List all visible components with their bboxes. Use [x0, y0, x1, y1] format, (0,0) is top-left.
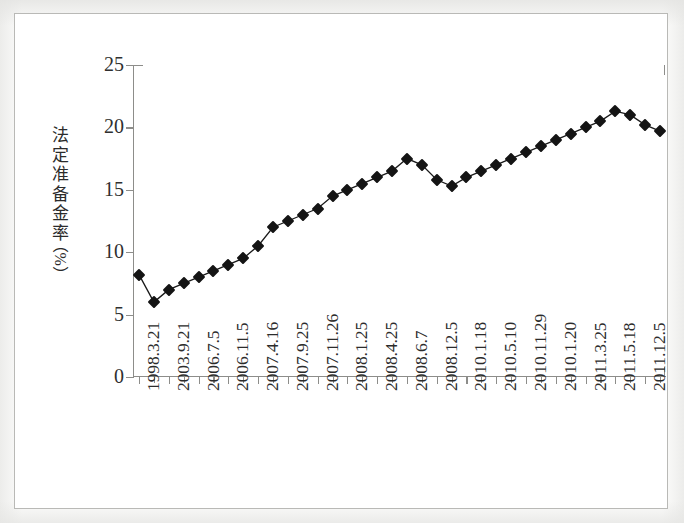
x-axis-tick-mark [526, 376, 527, 384]
y-axis-label-unit: （%） [52, 237, 69, 267]
y-axis-tick-label: 15 [104, 178, 124, 200]
y-axis-tick-label: 10 [104, 240, 124, 262]
y-axis-tick-label: 0 [114, 365, 124, 387]
x-axis-tick-mark [556, 376, 557, 384]
x-axis-tick-mark [496, 376, 497, 384]
x-axis-tick-mark [407, 376, 408, 384]
y-axis-tick-label: 25 [104, 53, 124, 75]
y-axis-label-char: 金 [45, 204, 75, 224]
y-axis-label-char: 准 [45, 165, 75, 185]
x-axis-tick-mark [466, 376, 467, 384]
x-axis-tick-mark [288, 376, 289, 384]
x-axis-tick-mark [318, 376, 319, 384]
x-axis-tick-mark [347, 376, 348, 384]
x-axis-tick-mark [199, 376, 200, 384]
y-axis-label: 法 定 准 备 金 率 （%） [45, 126, 75, 260]
y-axis-tick-mark [126, 377, 134, 378]
y-axis-label-char: 法 [45, 126, 75, 146]
x-axis-tick-mark [645, 376, 646, 384]
x-axis-tick-mark [228, 376, 229, 384]
figure-border: 法 定 准 备 金 率 （%） 0510152025 1998.3.212003… [14, 13, 668, 509]
x-axis-tick-mark [586, 376, 587, 384]
x-axis-tick-mark [169, 376, 170, 384]
y-axis-label-char: 定 [45, 146, 75, 166]
plot-area: 0510152025 1998.3.212003.9.212006.7.5200… [133, 65, 666, 377]
x-axis-tick-mark [615, 376, 616, 384]
y-axis-tick-label: 5 [114, 303, 124, 325]
y-axis-label-char: 备 [45, 185, 75, 205]
figure-page: 法 定 准 备 金 率 （%） 0510152025 1998.3.212003… [0, 0, 684, 523]
x-axis-tick-mark [437, 376, 438, 384]
y-axis-tick-label: 20 [104, 115, 124, 137]
x-axis-tick-mark [258, 376, 259, 384]
series-line [133, 65, 666, 377]
x-axis-tick-mark [377, 376, 378, 384]
x-axis-tick-mark [139, 376, 140, 384]
